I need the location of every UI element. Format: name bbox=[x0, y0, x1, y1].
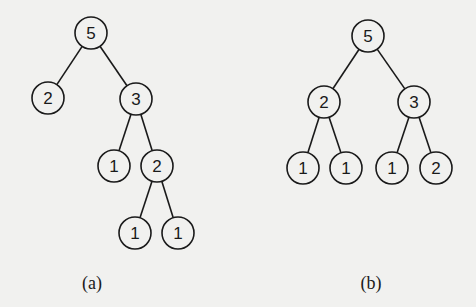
tree-node: 3 bbox=[120, 83, 152, 115]
node-value: 1 bbox=[341, 159, 350, 178]
node-value: 1 bbox=[173, 224, 182, 243]
node-value: 1 bbox=[387, 159, 396, 178]
tree-node: 1 bbox=[119, 217, 151, 249]
tree-edge bbox=[140, 181, 152, 218]
tree-edge bbox=[57, 46, 82, 84]
node-value: 1 bbox=[130, 224, 139, 243]
tree-edge bbox=[119, 114, 131, 151]
binary-trees-figure: 5231211(a)5231112(b) bbox=[0, 0, 476, 307]
node-value: 1 bbox=[109, 157, 118, 176]
node-value: 5 bbox=[86, 24, 95, 43]
tree-node: 2 bbox=[308, 86, 340, 118]
tree-edge bbox=[419, 117, 431, 153]
node-value: 2 bbox=[43, 89, 52, 108]
tree-edge bbox=[397, 117, 409, 153]
node-value: 3 bbox=[131, 90, 140, 109]
tree-node: 2 bbox=[141, 150, 173, 182]
tree-node: 2 bbox=[420, 152, 452, 184]
tree-edge bbox=[333, 49, 359, 88]
node-value: 3 bbox=[409, 93, 418, 112]
tree-node: 5 bbox=[352, 20, 384, 52]
tree-node: 1 bbox=[330, 152, 362, 184]
node-value: 1 bbox=[298, 159, 307, 178]
tree-node: 1 bbox=[98, 150, 130, 182]
tree-b: 5231112(b) bbox=[287, 20, 452, 294]
tree-node: 2 bbox=[32, 82, 64, 114]
tree-edge bbox=[329, 117, 341, 153]
node-value: 2 bbox=[152, 157, 161, 176]
tree-edge bbox=[100, 46, 127, 86]
figure-canvas: 5231211(a)5231112(b) bbox=[0, 0, 476, 307]
tree-node: 3 bbox=[398, 86, 430, 118]
tree-caption: (a) bbox=[82, 273, 102, 294]
tree-node: 5 bbox=[75, 17, 107, 49]
node-value: 5 bbox=[363, 27, 372, 46]
tree-node: 1 bbox=[162, 217, 194, 249]
tree-a: 5231211(a) bbox=[32, 17, 194, 294]
tree-edge bbox=[377, 49, 405, 89]
tree-edge bbox=[162, 181, 173, 217]
tree-node: 1 bbox=[287, 152, 319, 184]
node-value: 2 bbox=[431, 159, 440, 178]
tree-edge bbox=[141, 114, 152, 150]
node-value: 2 bbox=[319, 93, 328, 112]
tree-edge bbox=[308, 117, 319, 153]
tree-caption: (b) bbox=[361, 273, 382, 294]
tree-node: 1 bbox=[376, 152, 408, 184]
